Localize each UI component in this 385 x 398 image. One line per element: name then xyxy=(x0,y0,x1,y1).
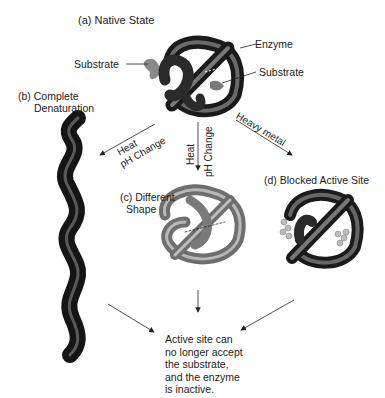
conclusion-line: Active site can xyxy=(165,333,243,346)
denatured-chain-illustration xyxy=(65,118,78,355)
substrate-left-shape xyxy=(144,59,161,79)
different-shape-label-1: (c) Different xyxy=(120,191,175,203)
enzyme-pointer xyxy=(240,44,256,48)
middle-arrow-ph-label: pH Change xyxy=(203,126,214,177)
native-state-label: (a) Native State xyxy=(78,14,154,26)
blocked-enzyme-illustration xyxy=(280,195,358,263)
conclusion-line: and the enzyme xyxy=(165,371,243,384)
substrate-left-label: Substrate xyxy=(74,58,119,70)
arrow-b-to-conclusion xyxy=(108,304,154,332)
native-enzyme-illustration xyxy=(144,42,238,110)
complete-denaturation-label-1: (b) Complete xyxy=(18,90,79,102)
conclusion-text: Active site can no longer accept the sub… xyxy=(165,333,243,396)
heavy-metal-ions-left xyxy=(280,219,292,239)
conclusion-line: is inactive. xyxy=(165,383,243,396)
substrate-bound-shape xyxy=(210,81,224,91)
blocked-active-site-label: (d) Blocked Active Site xyxy=(264,174,369,186)
complete-denaturation-label-2: Denaturation xyxy=(34,102,94,114)
conclusion-line: the substrate, xyxy=(165,358,243,371)
substrate-right-label: Substrate xyxy=(259,66,304,78)
enzyme-label: Enzyme xyxy=(255,38,293,50)
different-shape-label-2: Shape xyxy=(126,203,156,215)
arrow-d-to-conclusion xyxy=(241,300,294,330)
conclusion-line: no longer accept xyxy=(165,346,243,359)
different-shape-illustration xyxy=(164,190,240,259)
middle-arrow-heat-label: Heat xyxy=(185,144,196,165)
heavy-metal-ions-right xyxy=(335,229,349,246)
